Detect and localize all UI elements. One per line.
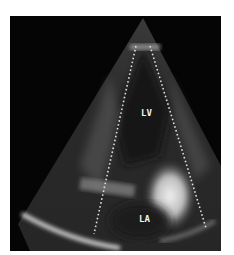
- lv-label: LV: [141, 108, 152, 118]
- ultrasound-frame: LV LA: [10, 16, 221, 251]
- ultrasound-sector: [10, 16, 221, 251]
- la-label: LA: [139, 214, 150, 224]
